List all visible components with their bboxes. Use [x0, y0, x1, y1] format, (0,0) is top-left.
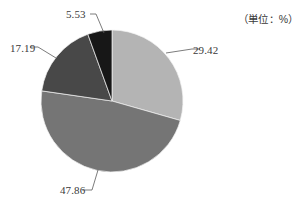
pie-slice-label-2: 17.19	[10, 42, 35, 54]
pie-slice-label-1: 47.86	[60, 184, 85, 196]
pie-chart-svg	[0, 0, 308, 210]
unit-note: （単位：%）	[238, 11, 299, 26]
pie-chart-figure: 29.42 47.86 17.19 5.53 （単位：%）	[0, 0, 308, 210]
leader-line-3	[90, 14, 104, 33]
pie-slice-label-3: 5.53	[66, 8, 86, 20]
pie-slice-label-0: 29.42	[193, 44, 218, 56]
pie-slice-group	[41, 30, 183, 172]
